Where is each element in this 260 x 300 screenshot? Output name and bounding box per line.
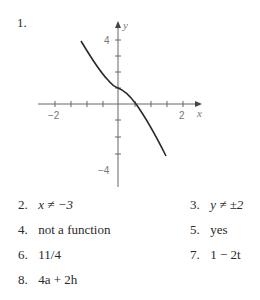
function-curve bbox=[81, 41, 166, 156]
answer-text: 1 − 2t bbox=[210, 247, 240, 262]
answer-number: 5. bbox=[190, 222, 207, 238]
y-axis-arrow-icon bbox=[115, 21, 121, 28]
answer-6: 6. 11/4 bbox=[18, 247, 61, 263]
y-tick-label-neg4: −4 bbox=[98, 165, 110, 176]
answer-number: 2. bbox=[18, 197, 35, 213]
answer-text: 11/4 bbox=[38, 247, 61, 262]
answer-text: not a function bbox=[38, 222, 110, 237]
answer-number: 8. bbox=[18, 272, 35, 288]
answer-8: 8. 4a + 2h bbox=[18, 272, 77, 288]
x-axis bbox=[38, 101, 202, 107]
y-axis-label: y bbox=[122, 19, 128, 31]
answer-number: 3. bbox=[190, 197, 207, 213]
answer-text: y ≠ ±2 bbox=[210, 197, 243, 212]
y-tick-label-4: 4 bbox=[104, 35, 110, 46]
x-tick-label-neg2: −2 bbox=[48, 110, 60, 121]
answer-number: 6. bbox=[18, 247, 35, 263]
x-axis-label: x bbox=[196, 107, 202, 119]
answer-4: 4. not a function bbox=[18, 222, 110, 238]
answer-text: 4a + 2h bbox=[38, 272, 77, 287]
answer-text: yes bbox=[210, 222, 227, 237]
answer-2: 2. x ≠ −3 bbox=[18, 197, 73, 213]
answer-3: 3. y ≠ ±2 bbox=[190, 197, 243, 213]
answer-5: 5. yes bbox=[190, 222, 228, 238]
answer-number: 7. bbox=[190, 247, 207, 263]
function-graph: −2 2 4 −4 x y bbox=[0, 0, 260, 195]
answer-text: x ≠ −3 bbox=[38, 197, 73, 212]
x-tick-label-2: 2 bbox=[179, 110, 185, 121]
answer-7: 7. 1 − 2t bbox=[190, 247, 241, 263]
answer-number: 4. bbox=[18, 222, 35, 238]
